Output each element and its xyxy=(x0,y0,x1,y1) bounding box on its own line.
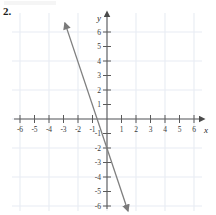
x-axis-label: x xyxy=(203,125,208,135)
y-tick-label: -2 xyxy=(95,144,101,153)
y-tick-label: -1 xyxy=(95,129,101,138)
y-axis-label: y xyxy=(96,13,101,23)
coordinate-plane: -6 -5 -4 -3 -2 -1 1 2 3 4 5 6 6 5 4 3 2 … xyxy=(0,0,216,215)
x-tick-label: 5 xyxy=(178,125,182,134)
x-tick-label: -2 xyxy=(75,125,81,134)
coordinate-plane-svg: -6 -5 -4 -3 -2 -1 1 2 3 4 5 6 6 5 4 3 2 … xyxy=(0,0,216,215)
x-tick-label: 4 xyxy=(163,125,167,134)
x-tick-label: 2 xyxy=(134,125,138,134)
x-tick-label: 3 xyxy=(149,125,153,134)
x-tick-label: 1 xyxy=(120,125,124,134)
y-tick-label: 4 xyxy=(97,57,101,66)
x-tick-label: -5 xyxy=(31,125,37,134)
y-tick-label: 6 xyxy=(97,28,101,37)
y-tick-label: -6 xyxy=(95,202,101,211)
y-tick-label: -3 xyxy=(95,158,101,167)
y-tick-label: 5 xyxy=(97,42,101,51)
x-tick-label: -4 xyxy=(46,125,52,134)
y-tick-label: -4 xyxy=(95,173,101,182)
x-tick-label: -3 xyxy=(60,125,66,134)
x-tick-label: -6 xyxy=(17,125,23,134)
y-tick-label: 2 xyxy=(97,86,101,95)
y-tick-label: 3 xyxy=(97,71,101,80)
y-tick-label: 1 xyxy=(97,100,101,109)
axes xyxy=(14,16,200,209)
graph-figure: 2. xyxy=(0,0,216,215)
x-tick-label: 6 xyxy=(192,125,196,134)
y-tick-label: -5 xyxy=(95,187,101,196)
